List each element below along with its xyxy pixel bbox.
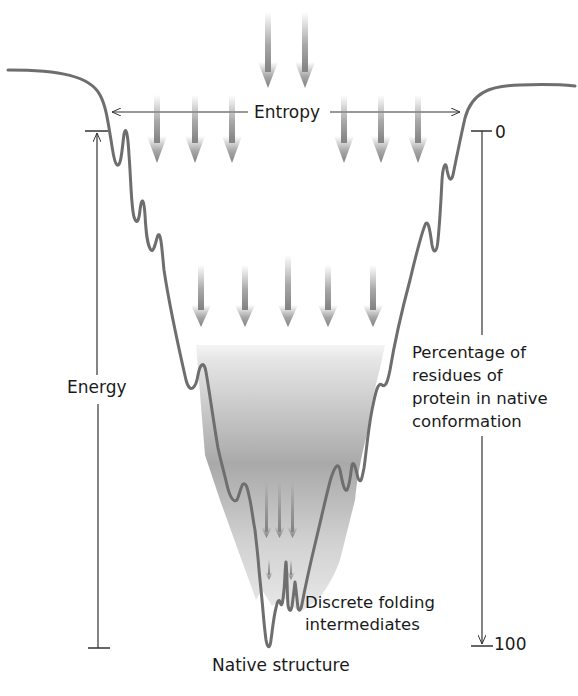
arrow-upper-3	[222, 95, 242, 163]
arrow-upper-6	[408, 95, 428, 163]
arrow-top-2	[295, 12, 315, 88]
axis-bottom-value: 100	[494, 633, 526, 655]
arrow-middle-1	[191, 265, 211, 327]
arrow-middle-3	[278, 255, 298, 327]
axis-top-value: 0	[495, 121, 506, 143]
percentage-axis-label: Percentage of residues of protein in nat…	[412, 341, 548, 433]
arrow-upper-4	[334, 95, 354, 163]
arrow-middle-5	[363, 265, 383, 327]
native-structure-label: Native structure	[212, 654, 350, 676]
arrow-middle-2	[235, 265, 255, 327]
arrow-upper-2	[185, 95, 205, 163]
entropy-label: Entropy	[252, 101, 322, 123]
arrow-top-1	[258, 12, 278, 88]
arrow-middle-4	[318, 265, 338, 327]
arrow-upper-1	[147, 95, 167, 163]
discrete-intermediates-label: Discrete folding intermediates	[305, 592, 435, 636]
arrow-upper-5	[371, 95, 391, 163]
energy-label: Energy	[67, 376, 127, 398]
